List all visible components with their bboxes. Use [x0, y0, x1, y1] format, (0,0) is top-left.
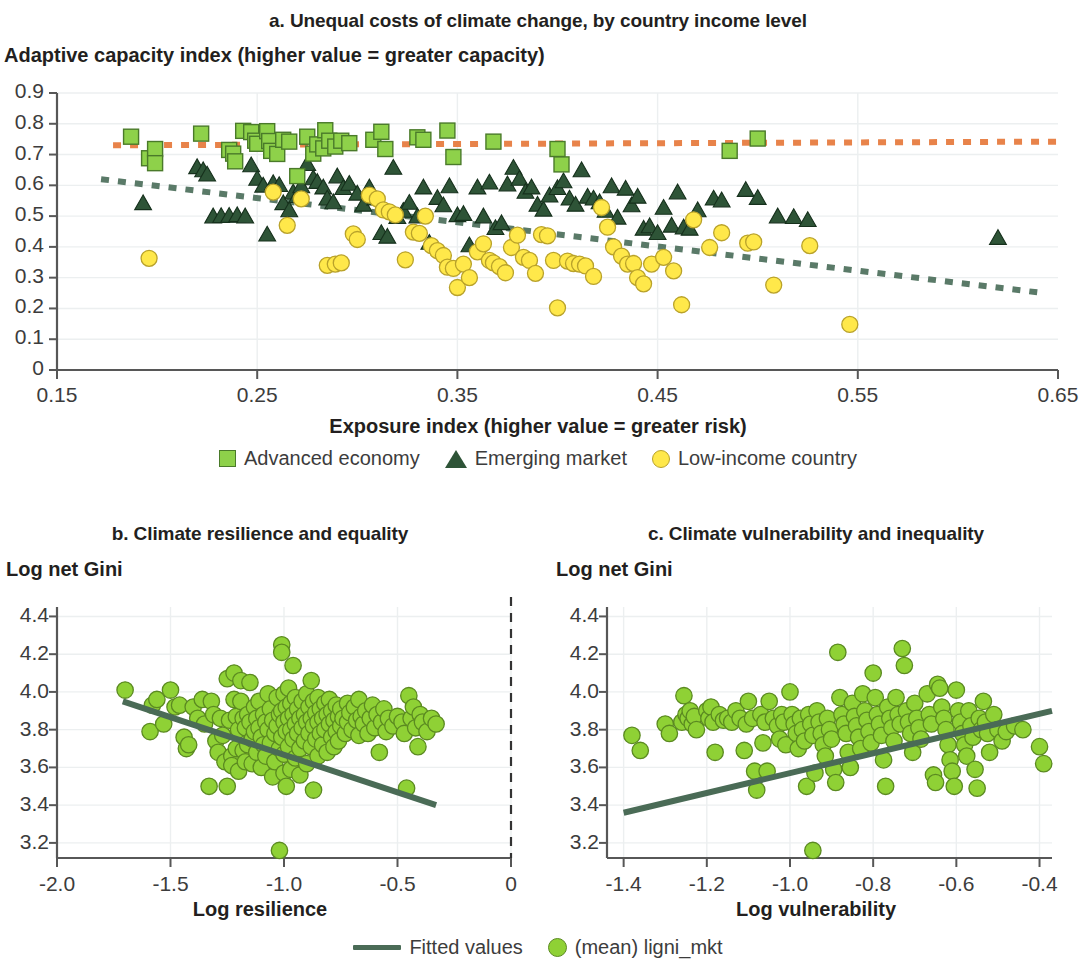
data-point-triangle [617, 180, 634, 195]
panel-b-x-tick-label: -1.5 [126, 872, 216, 896]
data-point-circle [411, 225, 427, 241]
panel-b-plot [0, 590, 540, 890]
panel-a-x-tick-label: 0.65 [1013, 383, 1083, 407]
data-point-circle [550, 300, 566, 316]
panel-b-y-axis-title: Log net Gini [6, 558, 123, 581]
data-point-circle [428, 716, 444, 732]
data-point-circle [927, 774, 943, 790]
data-point-square [148, 156, 163, 171]
data-point-circle [417, 208, 433, 224]
panel-a-y-tick-label: 0.8 [0, 110, 44, 134]
data-point-circle [279, 217, 295, 233]
panel-c-x-tick-label: -0.6 [911, 872, 1001, 896]
data-point-square [446, 150, 461, 165]
data-point-triangle [737, 182, 754, 197]
data-point-circle [969, 780, 985, 796]
data-point-circle [265, 184, 281, 200]
panel-a-y-tick-label: 0.9 [0, 79, 44, 103]
data-point-circle [877, 778, 893, 794]
data-point-circle [586, 268, 602, 284]
panel-b-title: b. Climate resilience and equality [0, 523, 520, 545]
data-point-square [554, 157, 569, 172]
panel-c-title: c. Climate vulnerability and inequality [556, 523, 1076, 545]
data-point-circle [782, 684, 798, 700]
data-point-circle [830, 644, 846, 660]
data-point-square [550, 142, 565, 157]
data-point-circle [475, 236, 491, 252]
data-point-circle [461, 270, 477, 286]
data-point-circle [967, 761, 983, 777]
panel-a-y-tick-label: 0.1 [0, 325, 44, 349]
square-marker-icon [219, 450, 236, 467]
data-point-circle [674, 297, 690, 313]
legend-item[interactable]: Advanced economy [219, 447, 420, 470]
data-point-square [342, 136, 357, 151]
data-point-circle [626, 256, 642, 272]
panel-b-y-tick-label: 3.8 [1, 717, 49, 741]
data-point-triangle [799, 212, 816, 227]
legend-item[interactable]: Low-income country [652, 447, 857, 470]
data-point-circle [676, 687, 692, 703]
series-circle [624, 640, 1052, 858]
data-point-square [194, 126, 209, 141]
series-triangle [135, 156, 1007, 252]
data-point-circle [702, 240, 718, 256]
data-point-square [148, 142, 163, 157]
data-point-circle [410, 738, 426, 754]
data-point-square [416, 132, 431, 147]
panel-b-x-tick-label: 0 [466, 872, 556, 896]
panel-b-y-tick-label: 3.2 [1, 830, 49, 854]
data-point-circle [594, 199, 610, 215]
panel-a-x-tick-label: 0.45 [613, 383, 703, 407]
data-point-triangle [135, 195, 152, 210]
triangle-marker-icon [445, 450, 467, 468]
data-point-circle [636, 276, 652, 292]
line-marker-icon [353, 945, 401, 950]
data-point-circle [1015, 721, 1031, 737]
data-point-circle [766, 277, 782, 293]
panel-b-y-tick-label: 4.0 [1, 679, 49, 703]
panel-c-y-tick-label: 3.6 [551, 754, 599, 778]
data-point-circle [141, 250, 157, 266]
data-point-circle [1031, 738, 1047, 754]
data-point-circle [303, 672, 319, 688]
panel-a-x-tick-label: 0.55 [813, 383, 903, 407]
data-point-circle [805, 842, 821, 858]
data-point-circle [761, 693, 777, 709]
legend-item[interactable]: (mean) ligni_mkt [548, 936, 723, 959]
data-point-triangle [385, 160, 402, 175]
legend-item[interactable]: Emerging market [445, 447, 627, 470]
data-point-circle [828, 774, 844, 790]
panel-c-y-tick-label: 3.2 [551, 830, 599, 854]
data-point-circle [117, 682, 133, 698]
data-point-circle [201, 778, 217, 794]
data-point-circle [397, 252, 413, 268]
data-point-circle [736, 742, 752, 758]
data-point-circle [539, 228, 555, 244]
data-point-circle [746, 234, 762, 250]
data-point-circle [371, 744, 387, 760]
data-point-circle [180, 737, 196, 753]
panel-a-y-tick-label: 0.5 [0, 202, 44, 226]
panel-c-x-tick-label: -1.0 [745, 872, 835, 896]
data-point-circle [632, 742, 648, 758]
data-point-triangle [669, 184, 686, 199]
data-point-triangle [481, 174, 498, 189]
data-point-circle [278, 778, 294, 794]
data-point-triangle [259, 226, 276, 241]
panel-a-plot [0, 0, 1076, 400]
panel-c-x-tick-label: -0.4 [995, 872, 1083, 896]
panel-a-legend: Advanced economyEmerging marketLow-incom… [0, 447, 1076, 470]
panel-b-x-axis-title: Log resilience [0, 898, 520, 921]
data-point-triangle [415, 179, 432, 194]
data-point-circle [293, 191, 309, 207]
data-point-circle [755, 735, 771, 751]
legend-item[interactable]: Fitted values [353, 936, 522, 959]
circle-marker-icon [652, 450, 670, 468]
panel-a-x-axis-title: Exposure index (higher value = greater r… [0, 415, 1076, 438]
panel-a-y-tick-label: 0.6 [0, 171, 44, 195]
data-point-circle [894, 640, 910, 656]
data-point-circle [242, 674, 258, 690]
panel-a-y-tick-label: 0.7 [0, 141, 44, 165]
